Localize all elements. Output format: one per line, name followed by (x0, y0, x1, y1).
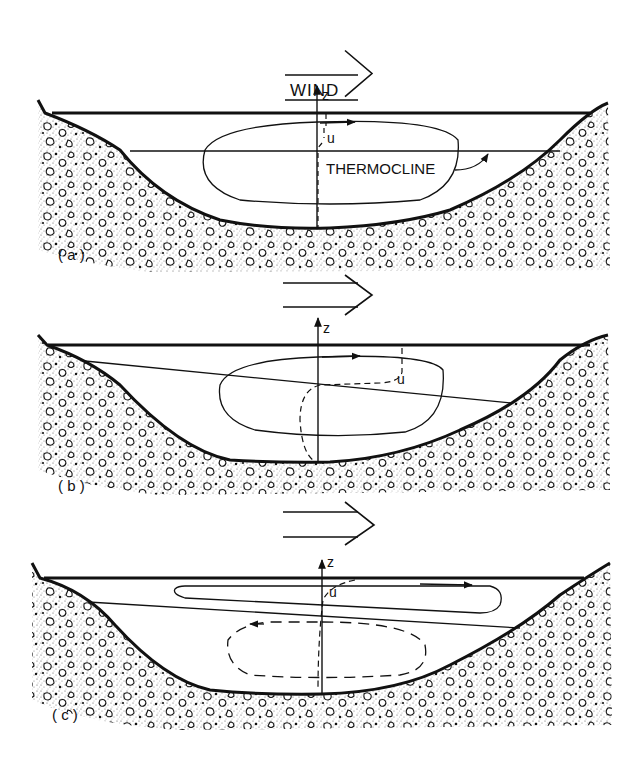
panel-label-a: ( a ) (58, 246, 85, 263)
wind-arrow (283, 275, 372, 315)
velocity-profile (317, 114, 326, 228)
u-label: u (327, 130, 335, 146)
thermocline-label: THERMOCLINE (326, 160, 435, 177)
wind-label: WIND (290, 81, 339, 100)
lower-counter-circulation-cell (228, 622, 426, 678)
panel-b: z u ( b ) (38, 275, 610, 495)
z-label: z (323, 320, 330, 336)
panel-label-b: ( b ) (58, 477, 85, 494)
panel-c: z u ( c ) (32, 502, 612, 730)
lake-circulation-diagram: WIND z u THERMOCLINE ( a ) z u ( b ) (0, 0, 644, 767)
u-label: u (329, 584, 337, 600)
velocity-profile (300, 348, 402, 462)
thermocline-line-tilted (88, 602, 520, 628)
panel-label-c: ( c ) (52, 706, 78, 723)
wind-arrow (283, 502, 374, 545)
u-label: u (397, 371, 405, 387)
lake-bed-a (38, 100, 610, 272)
panel-a: WIND z u THERMOCLINE ( a ) (38, 50, 610, 272)
z-label: z (322, 87, 329, 103)
thermocline-line-tilted (85, 361, 512, 403)
lake-bed-b (38, 335, 610, 495)
z-label: z (327, 554, 334, 570)
upper-circulation-cell (174, 586, 501, 613)
circulation-cell (219, 356, 443, 435)
